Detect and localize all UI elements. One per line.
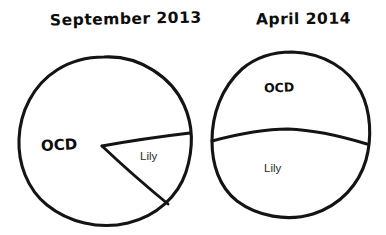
chart-title-right: April 2014 [256,10,351,29]
pie-left-label-ocd: OCD [41,135,78,155]
chart-title-left: September 2013 [50,8,202,29]
pie-left-label-lily: Lily [140,150,157,162]
pie-left-slice-edge-upper [102,133,190,146]
pie-right-label-ocd: OCD [264,79,295,95]
pie-right-divider-line [212,129,367,144]
pie-left-slice-edge-lower [102,146,168,204]
drawing-canvas: September 2013 April 2014 OCD Lily OCD L… [0,0,386,235]
pie-right-label-lily: Lily [264,162,281,174]
hand-drawn-ink-layer [0,0,386,235]
